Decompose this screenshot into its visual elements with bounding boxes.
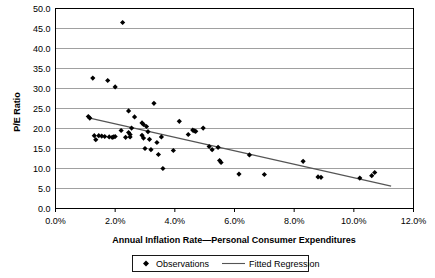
data-point [186, 132, 191, 137]
y-axis-tick-label: 5.0 [38, 184, 51, 194]
y-axis-tick-label: 30.0 [33, 84, 51, 94]
legend-fitted-regression-label: Fitted Regression [249, 259, 320, 269]
legend: Observations Fitted Regression [133, 256, 320, 272]
legend-observations-label: Observations [156, 259, 210, 269]
data-point [201, 126, 206, 131]
gridlines-group [56, 9, 414, 189]
y-axis-tick-label: 40.0 [33, 44, 51, 54]
x-axis-tick-label: 0.0% [45, 216, 66, 226]
data-point [247, 152, 252, 157]
y-axis-tick-label: 25.0 [33, 104, 51, 114]
data-point [126, 108, 131, 113]
data-point [148, 147, 153, 152]
data-point [151, 101, 156, 106]
data-point [301, 159, 306, 164]
x-axis-tick-labels: 0.0%2.0%4.0%6.0%8.0%10.0%12.0% [45, 216, 426, 226]
scatter-chart: 0.05.010.015.020.025.030.035.040.045.050… [0, 0, 435, 278]
data-point [90, 76, 95, 81]
data-point [154, 140, 159, 145]
y-axis-tick-label: 50.0 [33, 4, 51, 14]
data-point [120, 20, 125, 25]
x-axis-tick-label: 10.0% [341, 216, 367, 226]
x-axis-tick-label: 6.0% [224, 216, 245, 226]
y-axis-tick-label: 0.0 [38, 204, 51, 214]
data-point [160, 166, 165, 171]
data-point [156, 152, 161, 157]
y-axis-title: P/E Ratio [12, 92, 22, 132]
y-axis-tick-label: 10.0 [33, 164, 51, 174]
data-point [123, 135, 128, 140]
data-point [105, 78, 110, 83]
data-point [236, 172, 241, 177]
data-point [129, 126, 134, 131]
x-axis-tick-label: 12.0% [401, 216, 427, 226]
data-point [262, 172, 267, 177]
y-axis-tick-label: 45.0 [33, 24, 51, 34]
x-axis-tick-label: 4.0% [165, 216, 186, 226]
data-point [132, 114, 137, 119]
chart-canvas: 0.05.010.015.020.025.030.035.040.045.050… [0, 0, 435, 278]
x-axis-tick-marks [56, 209, 414, 213]
data-point [177, 119, 182, 124]
x-axis-tick-label: 8.0% [284, 216, 305, 226]
x-axis-title: Annual Inflation Rate—Personal Consumer … [112, 235, 356, 245]
data-point [215, 145, 220, 150]
data-point [147, 137, 152, 142]
y-axis-tick-label: 15.0 [33, 144, 51, 154]
x-axis-tick-label: 2.0% [105, 216, 126, 226]
data-point [142, 146, 147, 151]
y-axis-tick-label: 35.0 [33, 64, 51, 74]
y-axis-tick-labels: 0.05.010.015.020.025.030.035.040.045.050… [33, 4, 51, 214]
observation-points-group [86, 20, 378, 181]
data-point [145, 129, 150, 134]
y-axis-tick-label: 20.0 [33, 124, 51, 134]
